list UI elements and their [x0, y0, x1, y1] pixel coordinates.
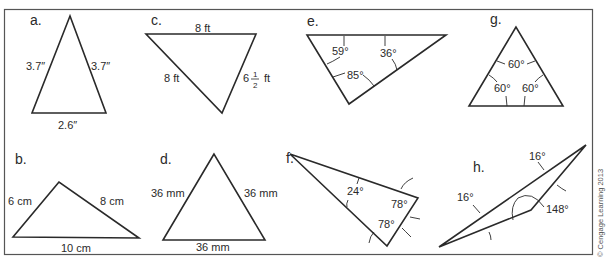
svg-text:ft: ft	[264, 72, 270, 84]
side-label-b-right: 8 cm	[100, 195, 124, 207]
angle-label-g-left: 60°	[494, 82, 511, 94]
side-label-a-left: 3.7″	[26, 60, 45, 72]
panel-h: h. 16° 16° 148°	[439, 145, 586, 247]
panel-a: a. 3.7″ 3.7″ 2.6″	[26, 12, 110, 131]
angle-label-h-obtuse: 148°	[546, 203, 569, 215]
panel-b: b. 6 cm 8 cm 10 cm	[8, 151, 139, 254]
side-label-c-top: 8 ft	[195, 22, 210, 34]
side-label-a-base: 2.6″	[58, 119, 77, 131]
triangle-c	[146, 34, 256, 113]
svg-text:2: 2	[253, 81, 258, 90]
angle-label-h-left: 16°	[457, 191, 474, 203]
arc-arrow-icon	[538, 162, 566, 191]
side-label-a-right: 3.7″	[91, 60, 110, 72]
panel-b-letter: b.	[15, 151, 27, 167]
arc-arrow-icon	[401, 178, 413, 189]
panel-e-letter: e.	[307, 13, 319, 29]
angle-label-h-top: 16°	[529, 150, 546, 162]
angle-label-e-bottom: 85°	[347, 69, 364, 81]
panel-d-letter: d.	[160, 151, 172, 167]
side-label-d-right: 36 mm	[244, 187, 278, 199]
panel-g: g. 60° 60° 60°	[469, 11, 563, 106]
side-label-c-left: 8 ft	[164, 72, 179, 84]
panel-f: f. 24° 78° 78°	[286, 150, 420, 246]
triangle-e	[307, 35, 446, 104]
panel-c-letter: c.	[151, 12, 162, 28]
triangles-figure: a. 3.7″ 3.7″ 2.6″ b. 6 cm 8 cm 10 cm c. …	[0, 0, 607, 265]
angle-label-g-right: 60°	[522, 82, 539, 94]
side-label-b-left: 6 cm	[8, 195, 32, 207]
side-label-d-base: 36 mm	[196, 241, 230, 253]
panel-e: e. 59° 36° 85°	[307, 13, 446, 104]
triangle-b	[13, 182, 139, 238]
svg-text:1: 1	[253, 70, 258, 79]
side-label-d-left: 36 mm	[151, 187, 185, 199]
angle-label-e-right: 36°	[380, 47, 397, 59]
svg-text:6: 6	[243, 72, 249, 84]
side-label-b-base: 10 cm	[61, 242, 91, 254]
panel-c: c. 8 ft 8 ft 6 1 2 ft	[146, 12, 270, 113]
side-label-c-right: 6 1 2 ft	[243, 70, 270, 90]
angle-label-f-top: 24°	[347, 185, 364, 197]
angle-label-f-right: 78°	[391, 198, 408, 210]
panel-d: d. 36 mm 36 mm 36 mm	[151, 151, 278, 253]
panel-a-letter: a.	[30, 12, 42, 28]
angle-label-e-left: 59°	[332, 45, 349, 57]
panel-h-letter: h.	[473, 159, 485, 175]
angle-label-g-top: 60°	[508, 58, 525, 70]
panel-f-letter: f.	[286, 150, 294, 166]
panel-g-letter: g.	[490, 11, 502, 27]
angle-label-f-bottom: 78°	[378, 218, 395, 230]
copyright-credit: © Cengage Learning 2013	[596, 169, 605, 257]
